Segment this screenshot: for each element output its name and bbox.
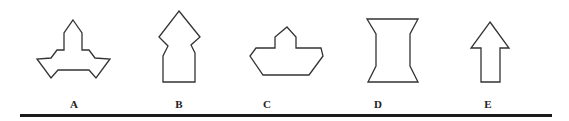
shape-d <box>367 19 418 82</box>
shape-a <box>37 20 110 78</box>
shape-b <box>159 11 200 82</box>
shape-e <box>471 22 509 82</box>
baseline-rule <box>20 114 552 117</box>
label-c: C <box>257 98 277 110</box>
label-d: D <box>368 98 388 110</box>
label-a: A <box>64 98 84 110</box>
label-e: E <box>478 98 498 110</box>
shape-c <box>250 27 323 75</box>
label-b: B <box>169 98 189 110</box>
